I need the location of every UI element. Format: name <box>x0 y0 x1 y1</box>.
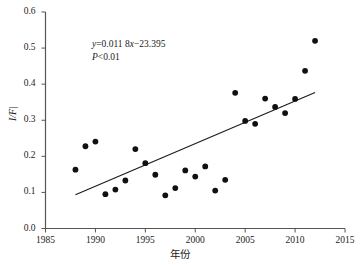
regression-trendline <box>75 93 315 195</box>
data-point <box>262 96 268 102</box>
x-tick-label: 2010 <box>277 235 313 245</box>
x-tick-label: 1990 <box>77 235 113 245</box>
data-point <box>172 185 178 191</box>
x-axis-ticks <box>46 229 346 233</box>
data-point <box>192 174 198 180</box>
data-point <box>222 177 228 183</box>
scatter-chart-figure: 0.00.10.20.30.40.50.6 198519901995200020… <box>0 0 360 265</box>
x-tick-label: 2005 <box>227 235 263 245</box>
y-tick-label: 0.5 <box>10 42 36 52</box>
data-point <box>242 118 248 124</box>
p-value-number: <0.01 <box>98 52 120 62</box>
p-value-text: P<0.01 <box>92 51 165 64</box>
data-point <box>302 68 308 74</box>
y-axis-title: I/F| <box>7 94 18 134</box>
data-point <box>282 110 288 116</box>
y-tick-label: 0.1 <box>10 186 36 196</box>
data-point <box>132 146 138 152</box>
x-tick-label: 2000 <box>177 235 213 245</box>
y-tick-label: 0.6 <box>10 6 36 16</box>
data-point <box>232 90 238 96</box>
plot-canvas <box>0 0 360 265</box>
y-tick-label: 0.0 <box>10 223 36 233</box>
equation-intercept: −23.395 <box>134 39 165 49</box>
data-point <box>142 160 148 166</box>
regression-annotation: y=0.011 8x−23.395 P<0.01 <box>92 38 165 64</box>
data-point <box>272 104 278 110</box>
data-point <box>162 192 168 198</box>
data-point <box>103 191 109 197</box>
data-point <box>83 143 89 149</box>
data-point <box>73 167 79 173</box>
x-tick-label: 1985 <box>28 235 64 245</box>
regression-equation: y=0.011 8x−23.395 <box>92 38 165 51</box>
y-tick-label: 0.4 <box>10 78 36 88</box>
data-point <box>182 168 188 174</box>
data-point <box>93 139 99 145</box>
equation-coefficient: =0.011 8 <box>96 39 130 49</box>
x-tick-label: 1995 <box>127 235 163 245</box>
x-axis-title: 年份 <box>0 246 360 261</box>
data-point <box>112 187 118 193</box>
data-point <box>212 188 218 194</box>
data-point <box>152 172 158 178</box>
axes-group <box>45 12 345 229</box>
data-point <box>202 164 208 170</box>
data-point <box>252 121 258 127</box>
data-point <box>312 38 318 44</box>
data-point <box>292 96 298 102</box>
y-tick-label: 0.2 <box>10 150 36 160</box>
x-tick-label: 2015 <box>327 235 360 245</box>
data-point <box>122 178 128 184</box>
